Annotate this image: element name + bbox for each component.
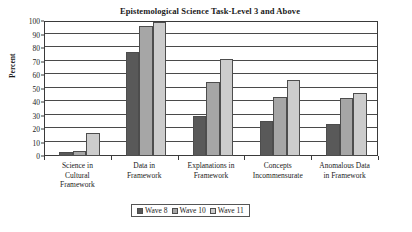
bar — [287, 80, 301, 156]
y-tick-label: 80 — [33, 44, 41, 53]
legend-swatch-icon — [172, 208, 178, 214]
y-tick-label: 70 — [33, 57, 41, 66]
y-axis-title: Percent — [8, 54, 17, 78]
x-tick-mark — [111, 156, 112, 160]
y-tick-label: 30 — [33, 111, 41, 120]
bar-group — [193, 21, 234, 156]
x-tick-mark — [378, 156, 379, 160]
x-tick-mark — [44, 156, 45, 160]
y-tick-label: 40 — [33, 98, 41, 107]
chart-title: Epistemological Science Task-Level 3 and… — [40, 6, 380, 17]
x-tick-mark — [178, 156, 179, 160]
bar-group — [59, 21, 100, 156]
y-tick-label: 50 — [33, 84, 41, 93]
bar — [126, 52, 140, 156]
legend-entry: Wave 11 — [208, 206, 246, 215]
legend-entry: Wave 8 — [135, 206, 170, 215]
bar — [353, 93, 367, 156]
bar — [206, 82, 220, 156]
bar — [73, 151, 87, 156]
bar-chart: Epistemological Science Task-Level 3 and… — [0, 0, 412, 232]
bar — [220, 59, 234, 156]
bar-series-container — [44, 21, 378, 156]
legend-swatch-icon — [210, 208, 216, 214]
y-tick-label: 10 — [33, 138, 41, 147]
x-tick-mark — [311, 156, 312, 160]
bar — [139, 26, 153, 156]
bar-group — [260, 21, 301, 156]
y-tick-label: 60 — [33, 71, 41, 80]
legend-label: Wave 10 — [180, 206, 206, 215]
bar-group — [126, 21, 167, 156]
legend-entry: Wave 10 — [170, 206, 208, 215]
y-tick-label: 0 — [36, 152, 40, 161]
bar — [59, 152, 73, 156]
bar — [260, 121, 274, 156]
x-category-label: Anomalous Data in Framework — [305, 161, 384, 180]
bar-group — [326, 21, 367, 156]
bar — [326, 124, 340, 156]
y-tick-label: 90 — [33, 30, 41, 39]
bar — [193, 116, 207, 157]
y-tick-label: 100 — [29, 17, 40, 26]
x-tick-mark — [244, 156, 245, 160]
legend-label: Wave 8 — [145, 206, 168, 215]
legend-label: Wave 11 — [218, 206, 244, 215]
chart-legend: Wave 8Wave 10Wave 11 — [131, 204, 250, 217]
bar — [153, 22, 167, 156]
y-tick-label: 20 — [33, 125, 41, 134]
bar — [340, 98, 354, 156]
bar — [273, 97, 287, 156]
legend-swatch-icon — [137, 208, 143, 214]
bar — [86, 133, 100, 156]
